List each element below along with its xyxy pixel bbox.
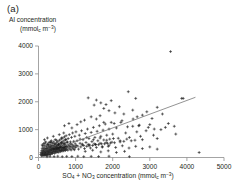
data-point-marker — [82, 144, 85, 147]
data-point-marker — [147, 126, 150, 129]
data-point-marker — [145, 129, 148, 132]
data-point-marker — [102, 107, 105, 110]
data-point-marker — [125, 138, 128, 141]
y-tick-label: 3000 — [18, 70, 33, 77]
data-point-marker — [113, 122, 116, 125]
data-point-marker — [97, 143, 100, 146]
data-point-marker — [105, 134, 108, 137]
data-point-marker — [90, 115, 93, 118]
data-point-marker — [66, 141, 69, 144]
data-point-marker — [71, 132, 74, 135]
data-point-marker — [99, 114, 102, 117]
y-axis-ticks: 01000200030004000 — [18, 42, 38, 160]
data-point-marker — [80, 129, 83, 132]
data-point-marker — [99, 150, 102, 153]
data-point-marker — [92, 126, 95, 129]
data-point-marker — [106, 142, 109, 145]
x-tick-label: 0 — [37, 163, 41, 170]
data-point-marker — [62, 132, 65, 135]
data-point-marker — [161, 113, 164, 116]
data-point-marker — [123, 150, 126, 153]
y-tick-label: 0 — [29, 154, 33, 161]
data-point-marker — [91, 149, 94, 152]
y-tick-label: 4000 — [18, 42, 33, 49]
x-tick-label: 2000 — [105, 163, 120, 170]
data-point-marker — [118, 105, 121, 108]
data-point-marker — [84, 150, 87, 153]
data-point-marker — [131, 125, 134, 128]
data-point-marker — [108, 109, 111, 112]
data-point-marker — [174, 133, 177, 136]
data-point-marker — [102, 121, 105, 124]
data-point-marker — [87, 96, 90, 99]
data-point-marker — [104, 123, 107, 126]
data-point-marker — [99, 101, 102, 104]
data-point-marker — [164, 126, 167, 129]
data-point-marker — [139, 135, 142, 138]
data-point-marker — [90, 140, 93, 143]
data-point-marker — [78, 134, 81, 137]
data-point-marker — [83, 119, 86, 122]
y-tick-label: 1000 — [18, 126, 33, 133]
data-point-marker — [63, 124, 66, 127]
data-point-marker — [117, 137, 120, 140]
data-point-marker — [93, 104, 96, 107]
data-point-marker — [113, 111, 116, 114]
x-tick-label: 3000 — [142, 163, 157, 170]
data-point-marker — [102, 138, 105, 141]
data-point-marker — [122, 140, 125, 143]
x-tick-label: 1000 — [68, 163, 83, 170]
data-point-marker — [58, 133, 61, 136]
x-axis-ticks: 010002000300040005000 — [37, 158, 232, 171]
y-tick-label: 2000 — [18, 98, 33, 105]
data-point-marker — [112, 137, 115, 140]
data-point-marker — [83, 147, 86, 150]
data-point-marker — [95, 99, 98, 102]
data-point-marker — [105, 139, 108, 142]
data-point-marker — [121, 144, 124, 147]
data-point-marker — [68, 133, 71, 136]
data-point-marker — [151, 117, 154, 120]
data-point-marker — [134, 145, 137, 148]
data-point-marker — [169, 50, 172, 53]
data-point-marker — [85, 141, 88, 144]
data-point-marker — [124, 132, 127, 135]
data-point-marker — [77, 148, 80, 151]
data-point-marker — [141, 138, 144, 141]
data-point-marker — [91, 144, 94, 147]
x-tick-label: 5000 — [217, 163, 232, 170]
data-point-marker — [96, 130, 99, 133]
data-point-marker — [95, 118, 98, 121]
data-point-marker — [198, 151, 201, 154]
data-point-marker — [156, 106, 159, 109]
data-point-marker — [130, 139, 133, 142]
data-point-marker — [76, 145, 79, 148]
data-point-marker — [110, 121, 113, 124]
data-point-marker — [111, 133, 114, 136]
data-point-marker — [98, 124, 101, 127]
data-point-marker — [96, 139, 99, 142]
data-point-marker — [46, 137, 49, 140]
data-point-marker — [67, 122, 70, 125]
scatter-plot: 01000200030004000 010002000300040005000 — [0, 0, 236, 187]
data-point-marker — [108, 138, 111, 141]
data-point-marker — [141, 147, 144, 150]
data-point-marker — [73, 135, 76, 138]
data-point-marker — [113, 141, 116, 144]
data-point-marker — [75, 130, 78, 133]
data-point-marker — [134, 139, 137, 142]
data-point-marker — [127, 90, 130, 93]
data-point-marker — [156, 137, 159, 140]
data-point-marker — [86, 128, 89, 131]
data-point-marker — [134, 97, 137, 100]
data-point-marker — [93, 136, 96, 139]
data-point-marker — [70, 136, 73, 139]
data-point-marker — [148, 145, 151, 148]
data-point-marker — [128, 136, 131, 139]
data-point-marker — [126, 125, 129, 128]
data-point-marker — [159, 128, 162, 131]
data-point-marker — [52, 135, 55, 138]
data-point-marker — [153, 128, 156, 131]
data-point-marker — [173, 125, 176, 128]
data-point-marker — [79, 145, 82, 148]
